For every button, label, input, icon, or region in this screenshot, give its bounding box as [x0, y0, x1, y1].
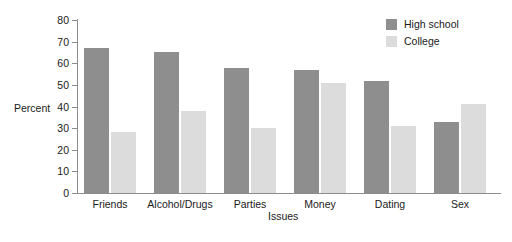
category-label: Sex	[451, 199, 469, 210]
y-axis-tick-mark	[72, 107, 78, 108]
chart-legend: High schoolCollege	[386, 16, 459, 50]
y-axis-tick-mark	[72, 171, 78, 172]
y-axis-tick-mark	[72, 20, 78, 21]
y-axis-tick-mark	[72, 150, 78, 151]
bar	[251, 128, 276, 193]
bar	[84, 48, 109, 193]
category-label: Money	[304, 199, 336, 210]
legend-swatch	[386, 36, 397, 47]
x-axis-line	[77, 193, 501, 194]
bar-group	[294, 20, 346, 193]
y-axis-tick-label: 40	[57, 101, 69, 112]
category-label: Alcohol/Drugs	[147, 199, 212, 210]
legend-entry: High school	[386, 16, 459, 33]
bar-group	[84, 20, 136, 193]
y-axis-tick-label: 30	[57, 123, 69, 134]
y-axis-tick-mark	[72, 193, 78, 194]
bar-group	[224, 20, 276, 193]
bar	[294, 70, 319, 193]
y-axis-tick-label: 50	[57, 80, 69, 91]
y-axis-tick-mark	[72, 85, 78, 86]
bar	[154, 52, 179, 193]
bar	[434, 122, 459, 193]
bar	[321, 83, 346, 193]
bar	[391, 126, 416, 193]
legend-label: College	[404, 36, 440, 47]
bar	[224, 68, 249, 193]
category-label: Parties	[234, 199, 267, 210]
bar	[111, 132, 136, 193]
legend-entry: College	[386, 33, 459, 50]
category-label: Friends	[92, 199, 127, 210]
y-axis-tick-mark	[72, 128, 78, 129]
legend-swatch	[386, 19, 397, 30]
x-axis-title: Issues	[268, 211, 298, 222]
y-axis-tick-label: 0	[63, 188, 69, 199]
bar	[461, 104, 486, 193]
bar	[181, 111, 206, 193]
y-axis-tick-mark	[72, 63, 78, 64]
category-label: Dating	[375, 199, 405, 210]
y-axis-tick-label: 10	[57, 166, 69, 177]
y-axis-tick-label: 70	[57, 36, 69, 47]
y-axis-tick-mark	[72, 42, 78, 43]
bar-chart: Percent Issues 01020304050607080 Friends…	[0, 0, 512, 242]
y-axis-tick-label: 20	[57, 145, 69, 156]
bar-group	[154, 20, 206, 193]
y-axis-title: Percent	[14, 103, 50, 114]
bar	[364, 81, 389, 193]
y-axis-tick-label: 60	[57, 58, 69, 69]
legend-label: High school	[404, 19, 459, 30]
y-axis-tick-label: 80	[57, 15, 69, 26]
